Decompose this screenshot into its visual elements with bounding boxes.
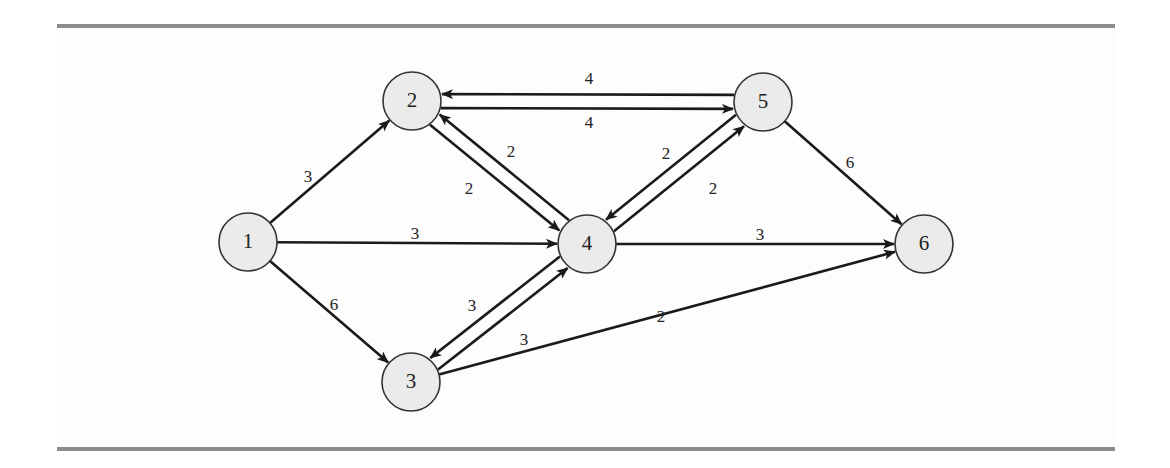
edge-2-to-4 xyxy=(430,125,559,231)
node-label: 1 xyxy=(243,229,254,253)
node-6: 6 xyxy=(895,215,953,273)
node-2: 2 xyxy=(383,72,441,130)
edge-5-to-2 xyxy=(442,94,734,95)
edge-4-to-5 xyxy=(614,126,744,231)
edge-weight-5-to-6: 6 xyxy=(846,153,855,172)
edge-weight-4-to-3: 3 xyxy=(468,296,477,315)
edge-1-to-2 xyxy=(270,121,389,224)
network-graph: 33644222263332 123456 xyxy=(0,0,1170,468)
edge-weight-3-to-4: 3 xyxy=(520,330,529,349)
edge-weight-1-to-3: 6 xyxy=(330,295,339,314)
edge-weight-5-to-4: 2 xyxy=(662,144,671,163)
edge-weight-4-to-6: 3 xyxy=(756,225,765,244)
node-label: 2 xyxy=(407,88,418,112)
edge-3-to-4 xyxy=(438,268,568,370)
node-1: 1 xyxy=(219,213,277,271)
edge-weight-4-to-2: 2 xyxy=(507,142,516,161)
edge-5-to-6 xyxy=(785,121,902,224)
edge-weight-2-to-4: 2 xyxy=(465,179,474,198)
node-4: 4 xyxy=(558,215,616,273)
edge-weight-5-to-2: 4 xyxy=(585,113,594,132)
node-label: 6 xyxy=(919,231,930,255)
edge-4-to-3 xyxy=(430,256,560,358)
edge-3-to-6 xyxy=(439,252,895,375)
edge-weight-1-to-2: 3 xyxy=(304,167,313,186)
node-label: 3 xyxy=(406,369,417,393)
edge-2-to-5 xyxy=(441,108,733,109)
node-label: 5 xyxy=(758,89,769,113)
node-label: 4 xyxy=(582,231,593,255)
bottom-rule xyxy=(57,447,1115,451)
edge-4-to-2 xyxy=(440,115,569,221)
edge-weight-3-to-6: 2 xyxy=(657,307,666,326)
edge-5-to-4 xyxy=(606,115,736,220)
network-figure: 33644222263332 123456 xyxy=(0,0,1170,468)
node-3: 3 xyxy=(382,353,440,411)
node-5: 5 xyxy=(734,73,792,131)
edge-weight-2-to-5: 4 xyxy=(585,69,594,88)
edge-weight-4-to-5: 2 xyxy=(709,179,718,198)
edge-weight-1-to-4: 3 xyxy=(411,224,420,243)
